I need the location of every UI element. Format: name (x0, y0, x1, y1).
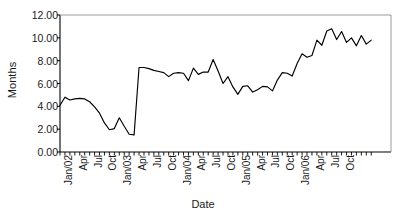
x-tick-label: Oct (286, 155, 296, 171)
x-tick-label: Jul (271, 155, 281, 168)
x-tick-label: Jul (331, 155, 341, 168)
x-tick-label: Oct (346, 155, 356, 171)
x-axis-title: Date (0, 198, 411, 210)
x-axis-title-text: Date (191, 198, 214, 210)
x-tick-label: Jan/03 (123, 155, 133, 185)
x-tick-label: Jul (94, 155, 104, 168)
x-tick-label: Jan/06 (301, 155, 311, 185)
axis-lines (60, 15, 391, 152)
x-tick-label: Jul (212, 155, 222, 168)
x-tick-label: Apr (197, 155, 207, 171)
data-series-line (60, 29, 371, 135)
x-tick-label: Apr (138, 155, 148, 171)
x-tick-label: Apr (79, 155, 89, 171)
x-tick-label: Oct (227, 155, 237, 171)
x-tick-label: Apr (316, 155, 326, 171)
x-tick-label: Apr (257, 155, 267, 171)
x-tick-label: Oct (108, 155, 118, 171)
x-tick-label: Jan/02 (64, 155, 74, 185)
x-tick-label: Jan/05 (242, 155, 252, 185)
chart-figure: Months 0.002.004.006.008.0010.0012.00 Ja… (0, 0, 411, 220)
x-tick-label: Oct (168, 155, 178, 171)
x-tick-label: Jan/04 (183, 155, 193, 185)
x-tick-label: Jul (153, 155, 163, 168)
